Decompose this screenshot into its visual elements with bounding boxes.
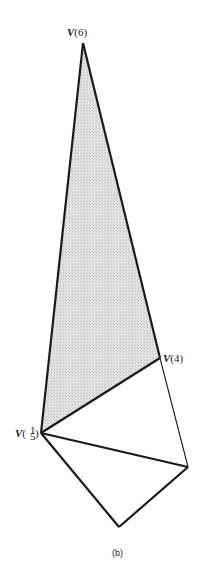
vertex-label-v15-close: ) [35,427,39,440]
polygon-diagram: V(6) V(4) V( 1 5 ) (b) [0,0,205,579]
edge-v15-right [41,433,188,467]
edge-v4-right [160,358,188,467]
shaded-triangle [41,43,160,433]
vertex-label-v15: V( [15,427,26,440]
edge-v15-bottom [41,433,119,527]
vertex-label-v6: V(6) [67,26,88,39]
figure-caption: (b) [112,548,123,558]
vertex-label-v4: V(4) [163,352,184,365]
edge-bottom-right [119,467,188,527]
